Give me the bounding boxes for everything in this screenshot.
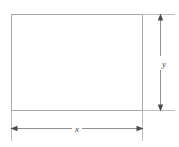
width-label: x — [74, 124, 79, 134]
geometry-figure: y x — [0, 0, 179, 147]
height-label: y — [161, 59, 166, 69]
rectangle-dimension-diagram: y x — [0, 0, 179, 147]
rectangle-shape — [12, 15, 143, 111]
